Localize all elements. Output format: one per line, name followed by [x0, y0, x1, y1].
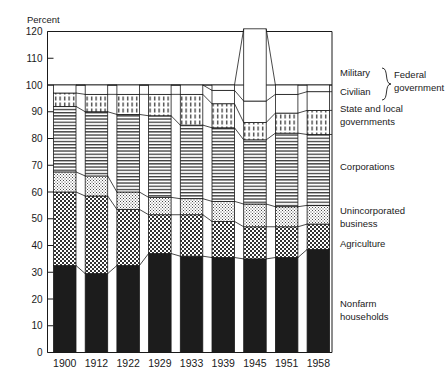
bar-segment [275, 94, 298, 113]
bar-top-connector [266, 29, 275, 85]
segment-connector [203, 215, 212, 222]
bar-segment [275, 207, 298, 227]
bar-segment [275, 133, 298, 207]
legend-label-nonfarm-1: Nonfarm [340, 298, 377, 309]
bar-segment [244, 259, 267, 353]
bar-segment [212, 201, 235, 221]
segment-connector [203, 256, 212, 257]
bar-segment [275, 113, 298, 133]
segment-connector [171, 254, 180, 257]
segment-connector [76, 192, 85, 196]
bar-segment [212, 90, 235, 103]
y-axis-title: Percent [27, 14, 60, 25]
bar-segment [180, 94, 203, 125]
bar-segment [117, 85, 139, 94]
bar-segment [180, 125, 203, 199]
x-tick-label: 1951 [275, 357, 299, 369]
segment-connector [108, 266, 117, 274]
bar-segment [85, 112, 108, 176]
bar-segment [85, 196, 108, 274]
y-tick-label: 70 [31, 160, 43, 171]
federal-brace [382, 68, 391, 100]
bar-segment [212, 221, 235, 257]
segment-connector [235, 201, 244, 204]
y-tick-label: 80 [31, 133, 43, 144]
legend-label-state-1: State and local [340, 103, 403, 114]
segment-connector [298, 110, 307, 113]
y-tick-label: 30 [31, 267, 43, 278]
chart-container: Percent1201101009080706050403020100 1900… [0, 0, 446, 385]
bar-segment [244, 29, 267, 101]
segment-connector [298, 133, 307, 134]
segment-connector [235, 128, 244, 140]
bar-segment [180, 215, 203, 256]
bar-segment [180, 256, 203, 352]
legend: MilitaryCivilianFederalgovernmentState a… [330, 67, 445, 322]
bar-segment [244, 140, 267, 204]
x-tick-label: 1900 [53, 357, 77, 369]
legend-label-agriculture: Agriculture [340, 238, 385, 249]
segment-connector [298, 250, 307, 258]
bar-segment [149, 116, 172, 198]
bar-segment [244, 227, 267, 259]
segment-connector [298, 205, 307, 206]
legend-label-nonfarm-2: households [340, 311, 389, 322]
y-tick-label: 10 [31, 320, 43, 331]
bar-segment [307, 85, 330, 92]
bar-segment [212, 128, 235, 202]
segment-connector [139, 209, 148, 214]
segment-connector [298, 92, 307, 95]
y-tick-label: 0 [37, 347, 43, 358]
segment-connector [203, 85, 212, 90]
x-tick-label: 1958 [307, 357, 331, 369]
segment-connector [266, 204, 275, 207]
bar-segment [85, 274, 108, 353]
y-tick-label: 120 [26, 26, 43, 37]
segment-connector [171, 116, 180, 125]
segment-connector [266, 94, 275, 101]
bar-segment [212, 85, 235, 90]
bar-segment [149, 94, 172, 115]
bar-segment [54, 192, 77, 266]
x-tick-label: 1939 [212, 357, 236, 369]
bar-segment [85, 85, 108, 94]
y-tick-label: 20 [31, 294, 43, 305]
bar-segment [307, 92, 330, 111]
segment-connector [76, 266, 85, 274]
x-tick-label: 1945 [243, 357, 267, 369]
x-tick-label: 1912 [85, 357, 109, 369]
bar-segment [149, 215, 172, 254]
bar-segment [117, 209, 139, 265]
legend-label-corporations: Corporations [340, 161, 395, 172]
bar-segment [54, 266, 77, 353]
bar-segment [212, 104, 235, 128]
plot-area [48, 29, 333, 353]
segment-connector [76, 106, 85, 111]
bar-segment [54, 106, 77, 172]
bar-segment [54, 172, 77, 192]
segment-connector [235, 90, 244, 101]
y-tick-label: 100 [26, 80, 43, 91]
legend-label-military: Military [340, 67, 370, 78]
bar-segment [307, 134, 330, 205]
bar-segment [149, 254, 172, 353]
bar-segment [54, 93, 77, 106]
bar-segment [275, 258, 298, 353]
segment-connector [171, 197, 180, 198]
bar-segment [149, 85, 172, 94]
segment-connector [266, 113, 275, 122]
segment-connector [203, 94, 212, 103]
segment-connector [298, 224, 307, 227]
legend-label-unincorporated-2: business [340, 218, 378, 229]
legend-label-state-2: governments [340, 116, 395, 127]
x-tick-label: 1922 [116, 357, 140, 369]
legend-label-unincorporated-1: Unincorporated [340, 205, 405, 216]
segment-connector [203, 125, 212, 128]
bar-segment [85, 94, 108, 111]
bar-top-connector [235, 29, 244, 85]
x-axis: 190019121922192919331939194519511958 [53, 357, 330, 369]
bar-segment [117, 266, 139, 353]
bar-segment [149, 197, 172, 214]
segment-connector [76, 172, 85, 176]
y-tick-label: 50 [31, 213, 43, 224]
